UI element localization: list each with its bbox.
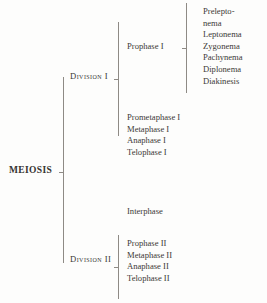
substage-list-prophase-i: Prelepto- nema Leptonema Zygonema Pachyn…	[203, 6, 243, 87]
brace-root-notch	[59, 172, 63, 173]
substage-item: Diakinesis	[203, 76, 243, 88]
substage-item: Diplonema	[203, 64, 243, 76]
brace-prophase-i-substages-notch	[182, 48, 186, 49]
brace-division-ii	[118, 236, 119, 298]
phase-item: Anaphase II	[127, 261, 172, 273]
phase-item: Prophase II	[127, 238, 172, 250]
division-label-ii: Division II	[70, 255, 111, 264]
brace-division-i	[118, 23, 119, 135]
division-label-i: Division I	[70, 72, 108, 81]
meiosis-diagram: MEIOSIS Division I Prophase I Prelepto- …	[0, 0, 267, 303]
substage-item: Leptonema	[203, 29, 243, 41]
substage-item: Pachynema	[203, 52, 243, 64]
phase-list-division-i: Prometaphase I Metaphase I Anaphase I Te…	[127, 112, 180, 158]
phase-item: Telophase II	[127, 273, 172, 285]
phase-label-interphase: Interphase	[127, 207, 163, 216]
phase-item: Metaphase I	[127, 124, 180, 136]
phase-item: Telophase I	[127, 147, 180, 159]
brace-root	[63, 78, 64, 262]
root-label-meiosis: MEIOSIS	[9, 166, 52, 176]
phase-item: Metaphase II	[127, 250, 172, 262]
brace-prophase-i-substages	[186, 4, 187, 92]
substage-item: Prelepto-	[203, 6, 243, 18]
substage-item: nema	[203, 18, 243, 30]
phase-item: Anaphase I	[127, 135, 180, 147]
phase-item: Prometaphase I	[127, 112, 180, 124]
phase-list-division-ii: Prophase II Metaphase II Anaphase II Tel…	[127, 238, 172, 284]
brace-division-ii-notch	[114, 267, 118, 268]
phase-label-prophase-i: Prophase I	[127, 42, 164, 51]
substage-item: Zygonema	[203, 41, 243, 53]
brace-division-i-notch	[114, 79, 118, 80]
